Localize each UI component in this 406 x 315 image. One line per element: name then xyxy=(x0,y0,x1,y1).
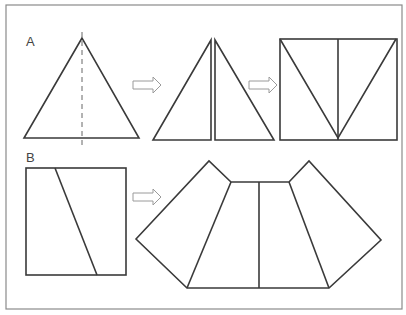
triangle-half-left xyxy=(153,40,211,140)
arrow-right-icon xyxy=(133,189,161,205)
triangle-half-right xyxy=(215,40,274,140)
arrow-right-icon xyxy=(249,77,277,93)
arrow-right-icon xyxy=(133,77,161,93)
diagram-canvas xyxy=(0,0,406,315)
fan-inner-line-left xyxy=(187,182,231,288)
fan-inner-line-right xyxy=(289,182,329,288)
square-cut-line xyxy=(55,168,97,275)
